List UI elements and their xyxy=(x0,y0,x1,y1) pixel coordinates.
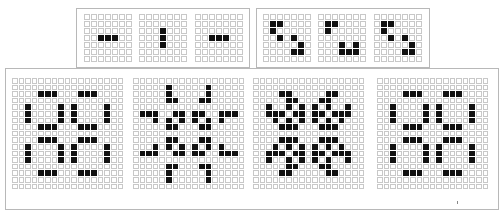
dead-cell xyxy=(384,137,390,143)
live-cell xyxy=(45,137,51,143)
dead-cell xyxy=(219,164,225,170)
dead-cell xyxy=(273,177,279,183)
dead-cell xyxy=(167,42,173,48)
dead-cell xyxy=(279,157,285,163)
dead-cell xyxy=(146,98,152,104)
live-cell xyxy=(326,137,332,143)
live-cell xyxy=(38,170,44,176)
dead-cell xyxy=(253,170,259,176)
dead-cell xyxy=(179,177,185,183)
dead-cell xyxy=(159,164,165,170)
dead-cell xyxy=(159,157,165,163)
dead-cell xyxy=(476,144,482,150)
dead-cell xyxy=(339,131,345,137)
live-cell xyxy=(319,98,325,104)
dead-cell xyxy=(345,144,351,150)
dead-cell xyxy=(390,184,396,190)
dead-cell xyxy=(359,131,365,137)
live-cell xyxy=(45,124,51,130)
dead-cell xyxy=(483,137,489,143)
dead-cell xyxy=(232,177,238,183)
dead-cell xyxy=(225,85,231,91)
live-cell xyxy=(266,111,272,117)
live-cell xyxy=(166,118,172,124)
live-cell xyxy=(286,170,292,176)
dead-cell xyxy=(456,118,462,124)
dead-cell xyxy=(179,137,185,143)
dead-cell xyxy=(403,118,409,124)
dead-cell xyxy=(173,104,179,110)
live-cell xyxy=(71,157,77,163)
dead-cell xyxy=(339,98,345,104)
dead-cell xyxy=(423,78,429,84)
dead-cell xyxy=(476,118,482,124)
dead-cell xyxy=(85,98,91,104)
dead-cell xyxy=(237,49,243,55)
dead-cell xyxy=(476,137,482,143)
dead-cell xyxy=(388,14,394,20)
dead-cell xyxy=(397,157,403,163)
dead-cell xyxy=(12,184,18,190)
dead-cell xyxy=(186,124,192,130)
dead-cell xyxy=(98,104,104,110)
dead-cell xyxy=(410,144,416,150)
live-cell xyxy=(286,98,292,104)
dead-cell xyxy=(91,104,97,110)
dead-cell xyxy=(260,184,266,190)
dead-cell xyxy=(423,170,429,176)
dead-cell xyxy=(384,157,390,163)
dead-cell xyxy=(118,157,124,163)
dead-cell xyxy=(12,104,18,110)
dead-cell xyxy=(118,124,124,130)
dead-cell xyxy=(111,157,117,163)
dead-cell xyxy=(65,177,71,183)
dead-cell xyxy=(167,21,173,27)
dead-cell xyxy=(118,151,124,157)
dead-cell xyxy=(239,98,245,104)
live-cell xyxy=(326,91,332,97)
dead-cell xyxy=(212,184,218,190)
dead-cell xyxy=(410,111,416,117)
dead-cell xyxy=(85,177,91,183)
live-cell xyxy=(173,124,179,130)
dead-cell xyxy=(98,118,104,124)
dead-cell xyxy=(377,104,383,110)
dead-cell xyxy=(417,111,423,117)
dead-cell xyxy=(381,56,387,62)
dead-cell xyxy=(286,78,292,84)
dead-cell xyxy=(279,144,285,150)
dead-cell xyxy=(463,151,469,157)
dead-cell xyxy=(417,85,423,91)
dead-cell xyxy=(403,164,409,170)
dead-cell xyxy=(436,78,442,84)
dead-cell xyxy=(91,184,97,190)
dead-cell xyxy=(469,184,475,190)
dead-cell xyxy=(209,42,215,48)
dead-cell xyxy=(225,118,231,124)
dead-cell xyxy=(397,177,403,183)
dead-cell xyxy=(410,157,416,163)
dead-cell xyxy=(286,111,292,117)
live-cell xyxy=(146,151,152,157)
dead-cell xyxy=(306,184,312,190)
dead-cell xyxy=(85,184,91,190)
dead-cell xyxy=(284,35,290,41)
dead-cell xyxy=(403,184,409,190)
dead-cell xyxy=(345,177,351,183)
dead-cell xyxy=(232,85,238,91)
dead-cell xyxy=(139,14,145,20)
live-cell xyxy=(199,111,205,117)
dead-cell xyxy=(85,118,91,124)
dead-cell xyxy=(430,98,436,104)
live-cell xyxy=(112,35,118,41)
live-cell xyxy=(45,91,51,97)
dead-cell xyxy=(199,184,205,190)
dead-cell xyxy=(450,131,456,137)
dead-cell xyxy=(219,184,225,190)
dead-cell xyxy=(186,137,192,143)
dead-cell xyxy=(98,91,104,97)
dead-cell xyxy=(374,35,380,41)
live-cell xyxy=(173,137,179,143)
dead-cell xyxy=(443,85,449,91)
dead-cell xyxy=(12,151,18,157)
